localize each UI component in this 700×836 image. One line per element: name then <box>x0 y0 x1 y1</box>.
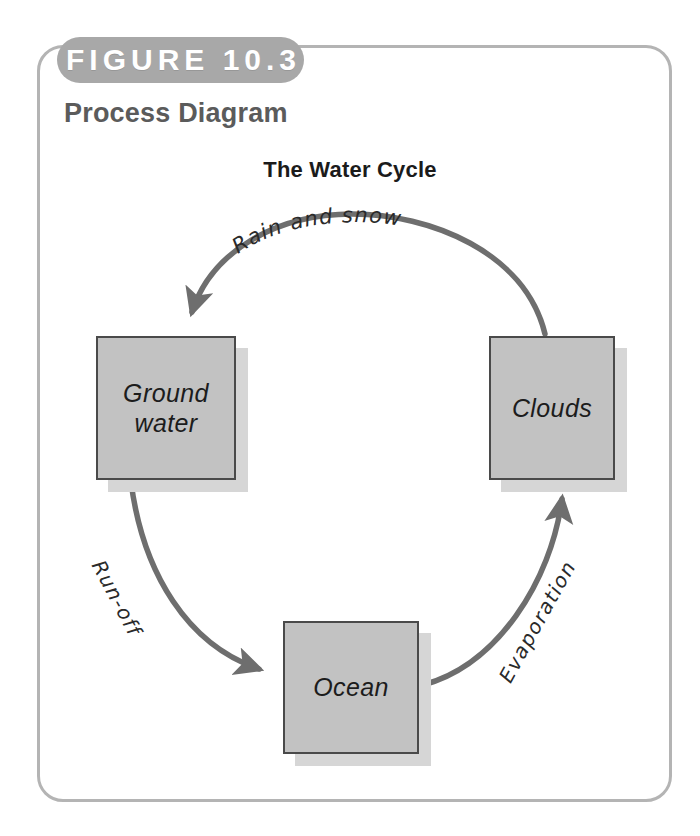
node-ground-water-label-line1: Ground <box>123 378 209 409</box>
node-clouds[interactable]: Clouds <box>489 336 615 480</box>
edge-label-rain-and-snow-text: Rain and snow <box>228 203 404 258</box>
node-ocean[interactable]: Ocean <box>283 621 419 754</box>
node-ground-water-label-line2: water <box>123 408 209 439</box>
figure-container: FIGURE 10.3 Process Diagram The Water Cy… <box>0 0 700 836</box>
edge-label-rain-and-snow: Rain and snow <box>230 205 470 265</box>
node-ground-water[interactable]: Ground water <box>96 336 236 480</box>
node-ocean-label: Ocean <box>313 672 389 703</box>
node-clouds-label: Clouds <box>512 393 592 424</box>
figure-number-badge: FIGURE 10.3 <box>57 37 304 83</box>
diagram-title: The Water Cycle <box>0 157 700 183</box>
figure-subtitle: Process Diagram <box>64 98 288 129</box>
